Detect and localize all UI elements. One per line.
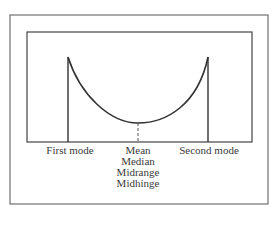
second-mode-label: Second mode (176, 145, 242, 156)
u-curve (68, 57, 208, 123)
first-mode-label: First mode (40, 145, 100, 156)
center-label-midhinge: Midhinge (108, 178, 168, 189)
plot-frame (27, 32, 252, 142)
